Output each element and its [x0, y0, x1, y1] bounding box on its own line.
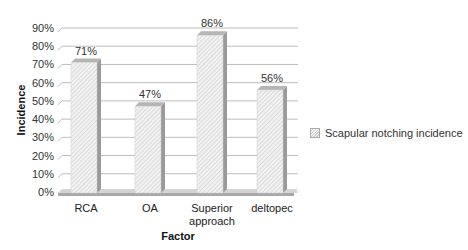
gridline-diagonal — [58, 28, 62, 32]
y-tick-label: 50% — [32, 95, 54, 107]
x-tick-label: deltopec — [251, 202, 293, 214]
y-tick-label: 70% — [32, 58, 54, 70]
value-label: 86% — [201, 17, 223, 29]
value-label: 71% — [75, 45, 97, 57]
gridline-diagonal — [58, 64, 62, 68]
y-tick-label: 40% — [32, 113, 54, 125]
y-axis-ticks: 0%10%20%30%40%50%60%70%80%90% — [32, 22, 54, 198]
y-tick-label: 60% — [32, 77, 54, 89]
gridline-diagonal — [58, 156, 62, 160]
x-axis-categories: RCAOASuperiorapproachdeltopec — [74, 202, 293, 227]
bar-superior-approach: 86% — [197, 17, 227, 193]
bar-chart: 0%10%20%30%40%50%60%70%80%90% 71%47%86%5… — [0, 0, 468, 250]
bar-rca: 71% — [71, 45, 101, 193]
x-tick-label: RCA — [74, 202, 98, 214]
y-tick-label: 30% — [32, 131, 54, 143]
x-tick-label: OA — [142, 202, 159, 214]
gridline-diagonal — [58, 119, 62, 123]
x-axis-title: Factor — [161, 230, 195, 242]
bars: 71%47%86%56% — [71, 17, 287, 193]
x-tick-label: Superior — [191, 202, 233, 214]
legend-swatch-icon — [310, 128, 320, 138]
gridline-diagonal — [58, 101, 62, 105]
floor-front — [58, 193, 294, 196]
y-tick-label: 90% — [32, 22, 54, 34]
legend: Scapular notching incidence — [310, 127, 463, 139]
value-label: 56% — [261, 72, 283, 84]
y-axis-title: Incidence — [15, 85, 27, 136]
y-tick-label: 0% — [38, 186, 54, 198]
gridline-diagonal — [58, 137, 62, 141]
legend-label: Scapular notching incidence — [325, 127, 463, 139]
gridline-diagonal — [58, 46, 62, 50]
gridline-diagonal — [58, 174, 62, 178]
y-tick-label: 10% — [32, 168, 54, 180]
gridline-diagonal — [58, 83, 62, 87]
x-tick-label: approach — [189, 215, 235, 227]
bar-oa: 47% — [135, 88, 165, 193]
y-tick-label: 80% — [32, 40, 54, 52]
y-tick-label: 20% — [32, 150, 54, 162]
bar-deltopec: 56% — [257, 72, 287, 193]
value-label: 47% — [139, 88, 161, 100]
